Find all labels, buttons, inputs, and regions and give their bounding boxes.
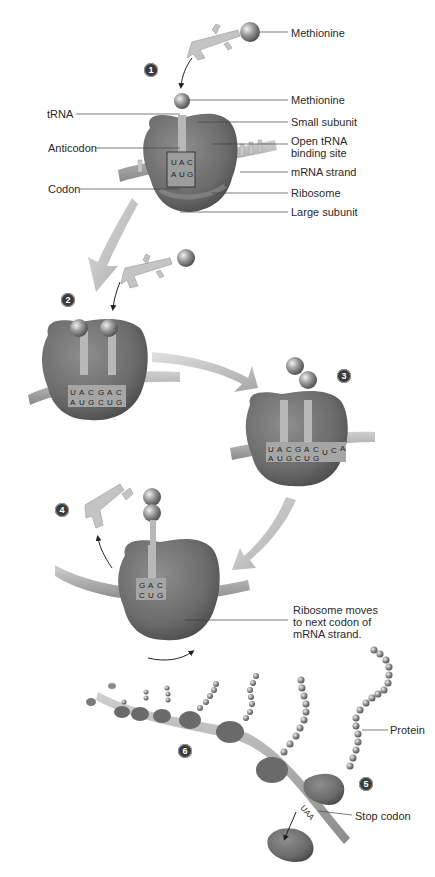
step-3-badge: 3: [337, 369, 351, 383]
svg-text:A: A: [179, 158, 185, 167]
label-methionine-bound: Methionine: [291, 94, 345, 106]
svg-text:A: A: [171, 170, 177, 179]
step-4-badge: 4: [55, 503, 69, 517]
step-2-illustration: UAC GAC AUG CUG: [28, 249, 195, 420]
svg-text:C: C: [139, 591, 145, 600]
incoming-trna-icon: [121, 249, 195, 288]
svg-text:A: A: [304, 445, 310, 454]
step-1-illustration: U A C A U G: [76, 22, 288, 212]
svg-text:A: A: [340, 444, 346, 453]
step-6-badge: 6: [178, 744, 192, 758]
svg-text:G: G: [187, 170, 193, 179]
label-open-trna-site: Open tRNA binding site: [291, 135, 371, 159]
svg-text:G: G: [88, 398, 94, 407]
svg-text:U: U: [277, 454, 283, 463]
svg-text:C: C: [331, 446, 337, 455]
svg-text:A: A: [79, 388, 85, 397]
svg-text:C: C: [88, 388, 94, 397]
anticodon-base: U: [171, 158, 177, 167]
svg-text:U: U: [107, 398, 113, 407]
svg-text:C: C: [157, 581, 163, 590]
step-4-illustration: GAC CUG: [55, 484, 288, 660]
svg-text:A: A: [268, 454, 274, 463]
svg-text:G: G: [286, 454, 292, 463]
svg-text:C: C: [313, 445, 319, 454]
polysome-illustration: UAA: [86, 647, 393, 863]
label-anticodon: Anticodon: [48, 142, 97, 154]
svg-text:G: G: [139, 581, 145, 590]
label-small-subunit: Small subunit: [291, 116, 357, 128]
label-large-subunit: Large subunit: [291, 206, 358, 218]
svg-text:U: U: [179, 170, 185, 179]
step-2-badge: 2: [61, 293, 75, 307]
svg-text:C: C: [98, 398, 104, 407]
svg-text:U: U: [268, 445, 274, 454]
svg-text:U: U: [79, 398, 85, 407]
svg-text:U: U: [70, 388, 76, 397]
svg-text:U: U: [322, 448, 328, 457]
svg-text:A: A: [107, 388, 113, 397]
label-ribosome: Ribosome: [291, 187, 341, 199]
label-ribosome-moves: Ribosome moves to next codon of mRNA str…: [293, 604, 383, 640]
label-stop-codon: Stop codon: [355, 810, 411, 822]
svg-text:A: A: [277, 445, 283, 454]
step-5-badge: 5: [359, 777, 373, 791]
free-trna-icon: [187, 22, 260, 60]
label-protein: Protein: [390, 724, 425, 736]
svg-text:U: U: [304, 454, 310, 463]
svg-text:G: G: [313, 454, 319, 463]
released-trna-icon: [85, 484, 133, 528]
svg-text:C: C: [286, 445, 292, 454]
svg-text:C: C: [116, 388, 122, 397]
label-mrna-strand: mRNA strand: [291, 166, 356, 178]
svg-text:C: C: [187, 158, 193, 167]
svg-text:G: G: [295, 445, 301, 454]
svg-text:G: G: [98, 388, 104, 397]
svg-text:U: U: [148, 591, 154, 600]
label-trna: tRNA: [47, 108, 73, 120]
flow-arrow-3-4: [232, 497, 296, 570]
svg-text:C: C: [295, 454, 301, 463]
svg-text:G: G: [116, 398, 122, 407]
svg-text:A: A: [148, 581, 154, 590]
step-1-badge: 1: [144, 63, 158, 77]
translation-illustration: U A C A U G: [0, 0, 435, 877]
svg-text:G: G: [157, 591, 163, 600]
label-methionine-free: Methionine: [291, 27, 345, 39]
label-codon: Codon: [48, 183, 80, 195]
svg-text:A: A: [70, 398, 76, 407]
